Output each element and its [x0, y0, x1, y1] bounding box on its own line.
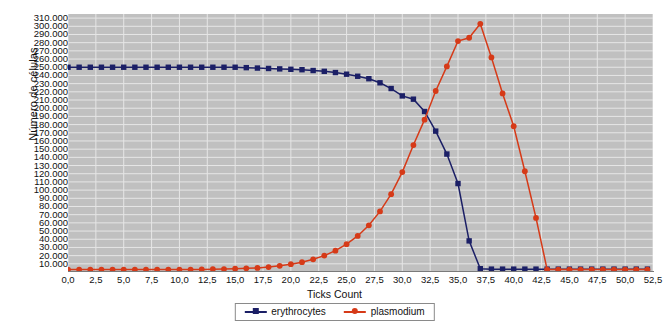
data-point-plasmodium: [366, 222, 372, 228]
data-point-plasmodium: [377, 208, 383, 214]
data-point-plasmodium: [433, 88, 439, 94]
data-point-plasmodium: [455, 38, 461, 44]
data-point-plasmodium: [321, 253, 327, 259]
data-point-plasmodium: [255, 265, 261, 271]
legend-swatch-icon: [244, 307, 266, 316]
data-point-erythrocytes: [455, 181, 460, 186]
data-point-plasmodium: [277, 263, 283, 269]
data-point-erythrocytes: [177, 65, 182, 70]
data-point-erythrocytes: [466, 238, 471, 243]
data-point-erythrocytes: [388, 86, 393, 91]
data-point-erythrocytes: [110, 65, 115, 70]
series-line-plasmodium: [68, 24, 647, 270]
data-point-erythrocytes: [310, 68, 315, 73]
data-point-plasmodium: [388, 191, 394, 197]
data-point-erythrocytes: [76, 65, 81, 70]
data-point-erythrocytes: [288, 67, 293, 72]
data-point-erythrocytes: [143, 65, 148, 70]
data-point-plasmodium: [533, 215, 539, 221]
chart-legend: erythrocytesplasmodium: [234, 303, 434, 321]
data-point-erythrocytes: [199, 65, 204, 70]
data-series-layer: [68, 14, 653, 272]
data-point-erythrocytes: [188, 65, 193, 70]
data-point-plasmodium: [444, 64, 450, 70]
legend-marker-icon: [252, 308, 258, 314]
data-point-plasmodium: [411, 142, 417, 148]
x-tick-label: 7,5: [145, 274, 158, 285]
data-point-plasmodium: [344, 241, 350, 247]
legend-entry-erythrocytes[interactable]: erythrocytes: [244, 306, 325, 317]
data-point-erythrocytes: [444, 151, 449, 156]
data-point-erythrocytes: [333, 70, 338, 75]
data-point-plasmodium: [511, 123, 517, 129]
data-point-plasmodium: [288, 261, 294, 267]
data-point-erythrocytes: [355, 74, 360, 79]
data-point-plasmodium: [466, 35, 472, 41]
data-point-erythrocytes: [277, 66, 282, 71]
chart-container: Número de células 310.000300.000290.0002…: [0, 0, 669, 328]
data-point-erythrocytes: [166, 65, 171, 70]
data-point-plasmodium: [355, 233, 361, 239]
data-point-erythrocytes: [132, 65, 137, 70]
x-tick-label: 40,0: [504, 274, 523, 285]
data-point-erythrocytes: [232, 65, 237, 70]
plot-area: [68, 14, 653, 272]
x-tick-label: 20,0: [282, 274, 301, 285]
data-point-erythrocytes: [400, 93, 405, 98]
x-tick-label: 32,5: [421, 274, 440, 285]
x-tick-label: 0,0: [61, 274, 74, 285]
data-point-erythrocytes: [68, 65, 71, 70]
x-tick-label: 45,0: [560, 274, 579, 285]
x-axis-tick-labels: 0,02,55,07,510,012,515,017,520,022,525,0…: [0, 274, 669, 288]
data-point-plasmodium: [489, 55, 495, 61]
x-tick-label: 47,5: [588, 274, 607, 285]
data-point-erythrocytes: [88, 65, 93, 70]
x-tick-label: 50,0: [616, 274, 635, 285]
series-plasmodium: [68, 21, 650, 272]
x-tick-label: 37,5: [477, 274, 496, 285]
x-tick-label: 52,5: [644, 274, 663, 285]
legend-label: plasmodium: [371, 306, 425, 317]
x-tick-label: 27,5: [365, 274, 384, 285]
x-tick-label: 15,0: [226, 274, 245, 285]
data-point-erythrocytes: [244, 65, 249, 70]
data-point-erythrocytes: [344, 72, 349, 77]
data-point-plasmodium: [500, 91, 506, 97]
x-tick-label: 17,5: [254, 274, 273, 285]
data-point-erythrocytes: [121, 65, 126, 70]
data-point-plasmodium: [299, 259, 305, 265]
data-point-plasmodium: [333, 248, 339, 254]
legend-swatch-icon: [344, 307, 366, 316]
legend-entry-plasmodium[interactable]: plasmodium: [344, 306, 425, 317]
data-point-erythrocytes: [366, 76, 371, 81]
data-point-erythrocytes: [210, 65, 215, 70]
data-point-plasmodium: [310, 256, 316, 262]
x-tick-label: 25,0: [337, 274, 356, 285]
data-point-plasmodium: [266, 264, 272, 270]
data-point-plasmodium: [422, 117, 428, 123]
x-axis-line: [68, 271, 654, 272]
y-tick-label: 10.000: [39, 259, 68, 269]
x-tick-label: 35,0: [449, 274, 468, 285]
x-tick-label: 12,5: [198, 274, 217, 285]
x-tick-label: 5,0: [117, 274, 130, 285]
x-axis-title: Ticks Count: [0, 288, 669, 300]
data-point-erythrocytes: [154, 65, 159, 70]
data-point-erythrocytes: [221, 65, 226, 70]
x-tick-label: 10,0: [170, 274, 189, 285]
data-point-erythrocytes: [411, 96, 416, 101]
legend-label: erythrocytes: [271, 306, 325, 317]
x-tick-label: 22,5: [309, 274, 328, 285]
data-point-plasmodium: [522, 168, 528, 174]
legend-marker-icon: [352, 308, 358, 314]
data-point-plasmodium: [399, 169, 405, 175]
data-point-erythrocytes: [99, 65, 104, 70]
data-point-erythrocytes: [377, 80, 382, 85]
data-point-erythrocytes: [266, 66, 271, 71]
data-point-plasmodium: [477, 21, 483, 27]
x-tick-label: 30,0: [393, 274, 412, 285]
x-tick-label: 42,5: [532, 274, 551, 285]
data-point-erythrocytes: [322, 69, 327, 74]
x-tick-label: 2,5: [89, 274, 102, 285]
data-point-erythrocytes: [299, 67, 304, 72]
